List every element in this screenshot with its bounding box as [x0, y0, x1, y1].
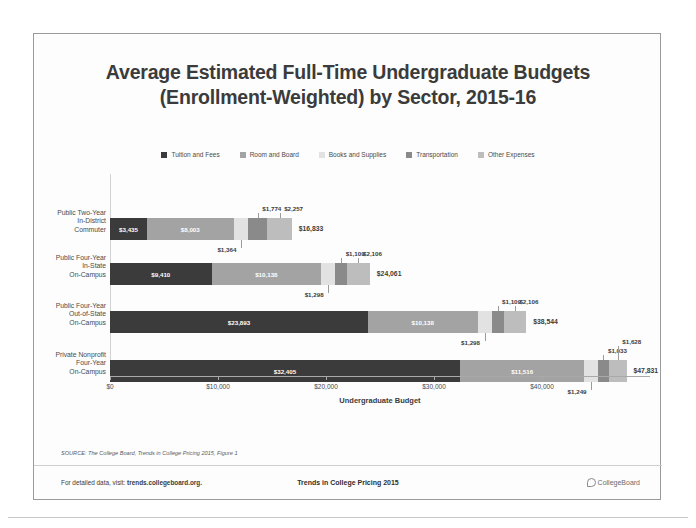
bar-segment-callout: $1,774	[262, 205, 281, 212]
bar-segment[interactable]	[478, 311, 492, 333]
bar-segment[interactable]	[492, 311, 504, 333]
bar-segment-value: $8,003	[147, 218, 233, 240]
x-tick-label: $0	[106, 383, 113, 390]
bar-segment[interactable]	[335, 263, 347, 285]
x-tick-label: $20,000	[314, 383, 338, 390]
bar-segment-callout: $1,298	[461, 339, 480, 346]
bar-segment[interactable]	[609, 360, 627, 382]
legend-label: Room and Board	[250, 151, 299, 158]
callout-leader-line	[591, 382, 592, 390]
page-divider	[8, 517, 688, 518]
bar-segment[interactable]: $8,003	[147, 218, 233, 240]
category-label: Public Four-YearOut-of-StateOn-Campus	[0, 302, 106, 327]
bar-segment-callout: $1,249	[568, 388, 587, 395]
bar-total-label: $16,833	[299, 225, 324, 232]
legend-item-other-expenses[interactable]: Other Expenses	[478, 151, 535, 158]
bar-segment-value: $10,138	[368, 311, 477, 333]
legend-label: Books and Supplies	[329, 151, 386, 158]
bar-segment-value: $11,516	[460, 360, 584, 382]
collegeboard-logo: CollegeBoard	[587, 478, 640, 487]
category-label-line: Four-Year	[0, 359, 106, 367]
bar-segment[interactable]	[347, 263, 370, 285]
legend-label: Tuition and Fees	[171, 151, 219, 158]
callout-leader-line	[358, 258, 359, 263]
bar-segment-callout: $2,106	[519, 298, 538, 305]
category-label-line: On-Campus	[0, 271, 106, 279]
bar-segment[interactable]: $32,405	[110, 360, 460, 382]
category-label-line: In-State	[0, 262, 106, 270]
x-tick	[326, 376, 327, 380]
callout-leader-line	[241, 240, 242, 248]
bar-segment-value: $9,410	[110, 263, 212, 285]
callout-leader-line	[485, 333, 486, 341]
bar-segment[interactable]	[248, 218, 267, 240]
bar-total-label: $38,544	[533, 318, 558, 325]
x-tick-label: $40,000	[530, 383, 554, 390]
callout-leader-line	[498, 306, 499, 311]
slide-footer: For detailed data, visit: trends.college…	[34, 465, 662, 499]
category-label: Public Two-YearIn-DistrictCommuter	[0, 209, 106, 234]
legend-item-books-and-supplies[interactable]: Books and Supplies	[319, 151, 386, 158]
legend-item-tuition-and-fees[interactable]: Tuition and Fees	[161, 151, 219, 158]
bar-segment-callout: $1,109	[502, 298, 521, 305]
category-label-line: Public Four-Year	[0, 254, 106, 262]
collegeboard-logo-text: CollegeBoard	[598, 479, 640, 486]
bar-segment-value: $10,138	[212, 263, 321, 285]
chart-legend: Tuition and FeesRoom and BoardBooks and …	[34, 151, 662, 158]
bar-segment-value: $3,435	[110, 218, 147, 240]
x-tick	[218, 376, 219, 380]
legend-label: Other Expenses	[488, 151, 535, 158]
category-label-line: Commuter	[0, 226, 106, 234]
bar-segment[interactable]	[267, 218, 291, 240]
category-label-line: Public Two-Year	[0, 209, 106, 217]
x-tick	[542, 376, 543, 380]
callout-leader-line	[328, 285, 329, 293]
x-tick-label: $10,000	[206, 383, 230, 390]
slide-canvas: Average Estimated Full-Time Undergraduat…	[33, 33, 661, 500]
bar-segment-callout: $1,628	[622, 338, 641, 345]
callout-leader-line	[341, 258, 342, 263]
bar-segment-callout: $2,106	[363, 250, 382, 257]
legend-swatch-icon	[406, 152, 412, 158]
legend-item-transportation[interactable]: Transportation	[406, 151, 458, 158]
bar-segment[interactable]: $9,410	[110, 263, 212, 285]
bar-segment-callout: $2,257	[284, 205, 303, 212]
source-note: SOURCE: The College Board, Trends in Col…	[61, 450, 238, 456]
legend-item-room-and-board[interactable]: Room and Board	[240, 151, 299, 158]
callout-leader-line	[258, 213, 259, 218]
bar-segment[interactable]: $10,138	[368, 311, 477, 333]
bar-segment-callout: $1,364	[217, 246, 236, 253]
page-title: Average Estimated Full-Time Undergraduat…	[34, 60, 662, 110]
category-label: Public Four-YearIn-StateOn-Campus	[0, 254, 106, 279]
legend-label: Transportation	[416, 151, 458, 158]
x-tick	[434, 376, 435, 380]
bar-segment[interactable]: $10,138	[212, 263, 321, 285]
bar-segment[interactable]	[598, 360, 609, 382]
callout-leader-line	[603, 355, 604, 360]
bar-segment[interactable]: $11,516	[460, 360, 584, 382]
category-label-line: On-Campus	[0, 368, 106, 376]
category-label: Private NonprofitFour-YearOn-Campus	[0, 351, 106, 376]
x-tick-label: $30,000	[422, 383, 446, 390]
bar-segment-value: $23,893	[110, 311, 368, 333]
bar-segment[interactable]: $23,893	[110, 311, 368, 333]
bar-segment-value: $32,405	[110, 360, 460, 382]
bar-segment[interactable]	[234, 218, 249, 240]
callout-leader-line	[618, 346, 619, 360]
title-line-2: (Enrollment-Weighted) by Sector, 2015-16	[34, 85, 662, 110]
legend-swatch-icon	[161, 152, 167, 158]
category-label-line: Public Four-Year	[0, 302, 106, 310]
bar-segment[interactable]	[584, 360, 597, 382]
title-line-1: Average Estimated Full-Time Undergraduat…	[106, 61, 590, 83]
footer-center-title: Trends in College Pricing 2015	[34, 479, 662, 486]
bar-segment-callout: $1,109	[346, 250, 365, 257]
callout-leader-line	[515, 306, 516, 311]
bar-segment[interactable]: $3,435	[110, 218, 147, 240]
legend-swatch-icon	[240, 152, 246, 158]
category-label-line: On-Campus	[0, 319, 106, 327]
bar-segment[interactable]	[321, 263, 335, 285]
bar-segment[interactable]	[504, 311, 527, 333]
collegeboard-acorn-icon	[587, 478, 596, 487]
x-axis-title: Undergraduate Budget	[110, 396, 650, 405]
category-label-line: Out-of-State	[0, 310, 106, 318]
